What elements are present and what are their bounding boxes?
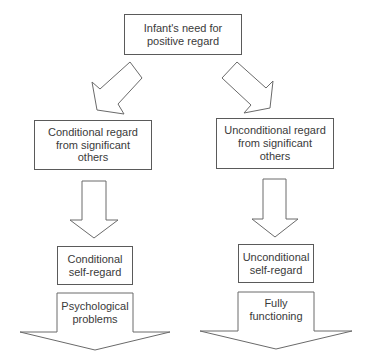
- outcome-right-line-1: Fully: [264, 297, 287, 310]
- conditional-self-regard-line-1: Conditional: [67, 253, 122, 266]
- unconditional-regard-line-2: from significant: [238, 137, 312, 150]
- unconditional-self-regard-line-2: self-regard: [250, 264, 303, 277]
- outcome-psychological-problems: Psychological problems: [57, 293, 133, 332]
- root-node-box: Infant's need for positive regard: [124, 14, 242, 55]
- unconditional-regard-box: Unconditional regard from significant ot…: [216, 118, 334, 169]
- root-node-text-line-1: Infant's need for: [144, 22, 223, 35]
- outcome-left-line-2: problems: [72, 313, 117, 326]
- unconditional-self-regard-line-1: Unconditional: [243, 251, 310, 264]
- diagonal-arrow-right-icon: [222, 62, 273, 113]
- down-arrow-right-icon: [252, 179, 298, 237]
- diagonal-arrow-left-icon: [92, 62, 142, 114]
- outcome-right-line-2: functioning: [249, 310, 302, 323]
- conditional-self-regard-box: Conditional self-regard: [57, 246, 133, 285]
- conditional-regard-box: Conditional regard from significant othe…: [34, 120, 152, 170]
- unconditional-regard-line-3: others: [260, 150, 291, 163]
- conditional-regard-line-3: others: [78, 151, 109, 164]
- unconditional-regard-line-1: Unconditional regard: [224, 124, 326, 137]
- root-node-text-line-2: positive regard: [147, 35, 219, 48]
- conditional-regard-line-1: Conditional regard: [48, 126, 138, 139]
- outcome-fully-functioning: Fully functioning: [238, 292, 314, 328]
- down-arrow-left-icon: [70, 181, 118, 238]
- unconditional-self-regard-box: Unconditional self-regard: [238, 244, 314, 283]
- outcome-left-line-1: Psychological: [61, 300, 128, 313]
- conditional-self-regard-line-2: self-regard: [69, 266, 122, 279]
- conditional-regard-line-2: from significant: [56, 139, 130, 152]
